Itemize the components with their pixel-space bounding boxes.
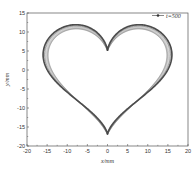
heart-curve-chart: -20-15-10-505101520 -20-15-10-5051015 x/… [0,0,194,171]
y-tick-label: -20 [17,143,25,149]
y-tick-label: -5 [20,86,25,92]
legend-marker-icon [157,14,160,17]
x-tick-label: 0 [106,148,109,154]
y-tick-label: 5 [22,48,25,54]
y-tick-label: 0 [22,67,25,73]
y-tick-label: 10 [19,29,25,35]
x-axis-label: x/mm [100,158,115,164]
x-tick-label: 20 [185,148,191,154]
y-axis-label: y/mm [4,72,10,87]
y-tick-label: 15 [19,10,25,16]
y-tick-label: -15 [17,124,25,130]
x-tick-label: -10 [63,148,71,154]
x-tick-label: 15 [165,148,171,154]
x-tick-label: 10 [145,148,151,154]
x-tick-label: 5 [126,148,129,154]
y-tick-label: -10 [17,105,25,111]
x-tick-label: -15 [43,148,51,154]
x-tick-label: -5 [85,148,90,154]
legend-label: t=500 [166,13,181,19]
